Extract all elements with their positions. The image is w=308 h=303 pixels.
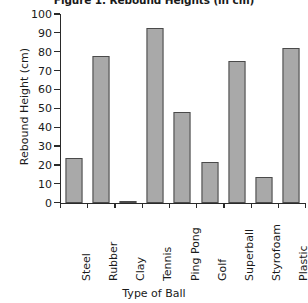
bar[interactable] bbox=[120, 201, 137, 203]
x-axis-category-labels: SteelRubberClayTennisPing PongGolfSuperb… bbox=[60, 209, 305, 281]
x-axis-category-label: Superball bbox=[243, 209, 257, 281]
y-axis-tick-label: 30 bbox=[0, 141, 52, 152]
y-axis-tick-label: 80 bbox=[0, 46, 52, 57]
y-axis-tick-label: 40 bbox=[0, 122, 52, 133]
x-axis-tick bbox=[169, 203, 170, 208]
y-axis-tick-label: 20 bbox=[0, 159, 52, 170]
bar-chart: Figure 1. Rebound Heights (in cm) Reboun… bbox=[0, 0, 308, 303]
bar-slot bbox=[142, 14, 169, 203]
bars-layer bbox=[60, 14, 305, 203]
x-axis-category-label: Steel bbox=[80, 209, 94, 281]
y-axis-tick-label: 90 bbox=[0, 27, 52, 38]
bar[interactable] bbox=[147, 28, 164, 203]
x-axis-tick bbox=[278, 203, 279, 208]
x-axis-tick bbox=[142, 203, 143, 208]
bar-slot bbox=[87, 14, 114, 203]
x-axis-title: Type of Ball bbox=[0, 287, 308, 300]
y-axis-tick-label: 0 bbox=[0, 197, 52, 208]
x-axis-category-label: Golf bbox=[216, 209, 230, 281]
x-axis-category-label: Ping Pong bbox=[189, 209, 203, 281]
x-axis-tick bbox=[60, 203, 61, 208]
x-axis-category-label: Tennis bbox=[161, 209, 175, 281]
y-axis-tick-label: 100 bbox=[0, 9, 52, 20]
x-axis-tick bbox=[251, 203, 252, 208]
y-axis-tick-label: 10 bbox=[0, 178, 52, 189]
bar-slot bbox=[251, 14, 278, 203]
y-axis-tick-label: 50 bbox=[0, 103, 52, 114]
x-axis-tick bbox=[196, 203, 197, 208]
bar-slot bbox=[278, 14, 305, 203]
bar[interactable] bbox=[283, 48, 300, 203]
y-axis-tick-label: 60 bbox=[0, 84, 52, 95]
x-axis-category-label: Plastic bbox=[297, 209, 308, 281]
y-axis-tick-label: 70 bbox=[0, 65, 52, 76]
bar[interactable] bbox=[65, 158, 82, 203]
x-axis-category-label: Clay bbox=[134, 209, 148, 281]
bar[interactable] bbox=[174, 112, 191, 203]
bar-slot bbox=[223, 14, 250, 203]
x-axis-tick bbox=[223, 203, 224, 208]
x-axis-tick bbox=[305, 203, 306, 208]
x-axis-category-label: Rubber bbox=[107, 209, 121, 281]
bar[interactable] bbox=[228, 61, 245, 203]
bar[interactable] bbox=[256, 177, 273, 203]
bar[interactable] bbox=[92, 56, 109, 203]
bar-slot bbox=[60, 14, 87, 203]
bar-slot bbox=[196, 14, 223, 203]
chart-title: Figure 1. Rebound Heights (in cm) bbox=[0, 0, 308, 6]
x-axis-tick bbox=[114, 203, 115, 208]
x-axis-category-label: Styrofoam bbox=[270, 209, 284, 281]
bar[interactable] bbox=[201, 162, 218, 204]
x-axis-tick bbox=[87, 203, 88, 208]
bar-slot bbox=[169, 14, 196, 203]
bar-slot bbox=[114, 14, 141, 203]
